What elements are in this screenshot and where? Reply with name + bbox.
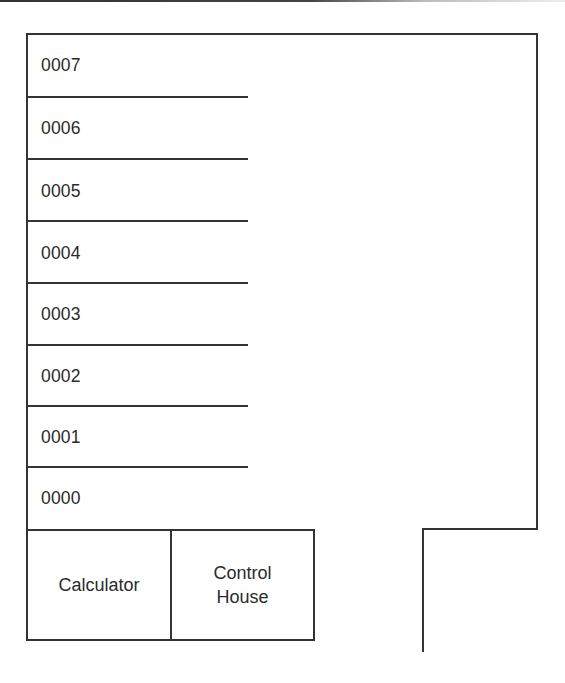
level-divider bbox=[26, 466, 248, 468]
level-label-0004: 0004 bbox=[41, 243, 81, 263]
level-divider bbox=[26, 344, 248, 346]
level-divider bbox=[26, 282, 248, 284]
level-label-0003: 0003 bbox=[41, 304, 81, 324]
outer-wall-right bbox=[536, 33, 538, 530]
level-label-0001: 0001 bbox=[41, 427, 81, 447]
level-divider bbox=[26, 220, 248, 222]
calculator-label: Calculator bbox=[58, 573, 139, 597]
entrance-wall bbox=[422, 528, 424, 652]
level-label-0006: 0006 bbox=[41, 118, 81, 138]
control-house-label: Control House bbox=[213, 561, 271, 609]
level-label-0005: 0005 bbox=[41, 181, 81, 201]
level-divider bbox=[26, 405, 248, 407]
level-label-0007: 0007 bbox=[41, 55, 81, 75]
level-divider bbox=[26, 158, 248, 160]
page-edge-border bbox=[0, 0, 565, 2]
calculator-room: Calculator bbox=[26, 529, 172, 641]
outer-wall-lower-right bbox=[422, 528, 538, 530]
control-house-room: Control House bbox=[170, 529, 315, 641]
level-divider bbox=[26, 96, 248, 98]
outer-wall-top bbox=[26, 33, 538, 35]
level-label-0002: 0002 bbox=[41, 366, 81, 386]
level-label-0000: 0000 bbox=[41, 488, 81, 508]
